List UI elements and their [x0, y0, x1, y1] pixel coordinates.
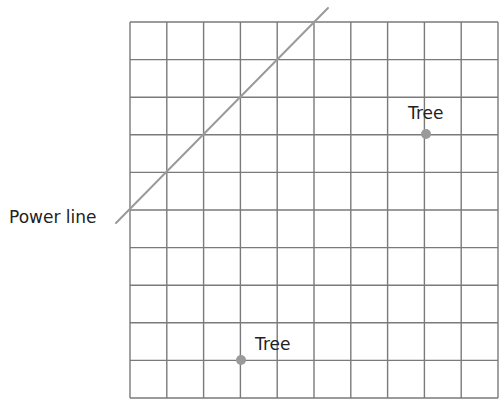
power-line: [116, 8, 328, 223]
tree-label: Tree: [408, 105, 443, 122]
tree-dot-icon: [421, 129, 431, 139]
tree-dot-icon: [236, 355, 246, 365]
grid-lines: [130, 22, 498, 398]
tree-label: Tree: [255, 336, 290, 353]
power-line-label: Power line: [9, 209, 96, 226]
